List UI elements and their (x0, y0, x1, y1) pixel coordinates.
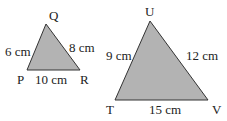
side-tu-label: 9 cm (106, 48, 132, 63)
similar-triangles-diagram: Q P R 6 cm 8 cm 10 cm U T V 9 cm 12 cm 1… (0, 0, 227, 121)
side-pr-label: 10 cm (35, 72, 67, 87)
vertex-r-label: R (80, 72, 89, 87)
side-pq-label: 6 cm (5, 44, 31, 59)
side-tv-label: 15 cm (149, 102, 181, 117)
triangle-tuv: U T V 9 cm 12 cm 15 cm (106, 4, 222, 117)
vertex-u-label: U (145, 4, 155, 19)
vertex-t-label: T (106, 102, 114, 117)
side-qr-label: 8 cm (69, 40, 95, 55)
vertex-q-label: Q (49, 8, 59, 23)
side-uv-label: 12 cm (186, 48, 218, 63)
triangle-pqr: Q P R 6 cm 8 cm 10 cm (5, 8, 95, 87)
vertex-p-label: P (17, 72, 24, 87)
vertex-v-label: V (212, 102, 222, 117)
